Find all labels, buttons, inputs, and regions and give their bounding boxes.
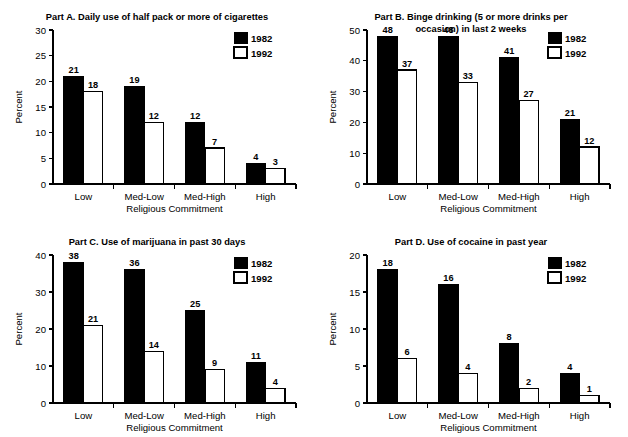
- y-tick-label: 0: [41, 179, 46, 190]
- y-tick-label: 30: [35, 25, 46, 36]
- x-axis-c: LowMed-LowMed-HighHigh: [75, 403, 296, 421]
- y-tick-label: 5: [41, 153, 46, 164]
- bar-value-label: 7: [212, 137, 217, 147]
- y-tick-label: 20: [35, 76, 46, 87]
- bar-value-label: 16: [443, 273, 453, 283]
- bar-1992-low: [397, 70, 416, 184]
- bar-1982-med-high: [499, 344, 518, 403]
- chart-panel-c: Part C. Use of marijuana in past 30 days…: [0, 219, 314, 437]
- bar-value-label: 8: [507, 332, 512, 342]
- y-tick-label: 15: [35, 102, 46, 113]
- chart-title-line: Part D. Use of cocaine in past year: [395, 237, 548, 247]
- bar-1992-med-low: [458, 373, 477, 403]
- y-tick-label: 25: [35, 50, 46, 61]
- bar-1992-high: [266, 169, 285, 184]
- bar-value-label: 2: [526, 377, 531, 387]
- bar-value-label: 1: [587, 384, 592, 394]
- chart-title-b: Part B. Binge drinking (5 or more drinks…: [374, 12, 568, 34]
- y-tick-label: 5: [355, 361, 360, 372]
- bar-1992-med-low: [458, 82, 477, 184]
- chart-title-line: Part B. Binge drinking (5 or more drinks…: [374, 12, 568, 22]
- y-axis-d: 05101520: [349, 250, 367, 409]
- bar-1982-low: [378, 270, 397, 403]
- y-tick-label: 10: [349, 324, 360, 335]
- x-category-label: Med-Low: [438, 410, 478, 421]
- legend-label-1982: 1982: [565, 33, 586, 44]
- bar-1982-high: [246, 163, 265, 184]
- bar-value-label: 12: [190, 111, 200, 121]
- x-category-label: Med-Low: [124, 410, 164, 421]
- bar-1982-med-low: [125, 270, 144, 403]
- x-category-label: Low: [75, 191, 93, 202]
- y-tick-label: 50: [349, 25, 360, 36]
- x-axis-title: Religious Commitment: [126, 422, 223, 433]
- y-tick-label: 10: [349, 148, 360, 159]
- bar-value-label: 27: [523, 89, 533, 99]
- bar-1992-low: [83, 325, 102, 403]
- legend-label-1992: 1992: [565, 48, 586, 59]
- bar-value-label: 48: [443, 25, 453, 35]
- bar-value-label: 48: [383, 25, 393, 35]
- bar-1982-med-high: [185, 122, 204, 184]
- x-category-label: Low: [389, 191, 407, 202]
- bars-group-a: 2118191212743: [64, 65, 285, 184]
- bar-1992-med-low: [144, 351, 163, 403]
- chart-title-line: Part C. Use of marijuana in past 30 days: [69, 237, 246, 247]
- legend-c: 19821992: [234, 257, 272, 284]
- chart-panel-b: Part B. Binge drinking (5 or more drinks…: [314, 0, 628, 218]
- chart-title-a: Part A. Daily use of half pack or more o…: [46, 12, 268, 22]
- bar-value-label: 21: [88, 314, 98, 324]
- y-tick-label: 0: [355, 179, 360, 190]
- bar-1982-med-high: [185, 311, 204, 404]
- y-axis-title: Percent: [13, 312, 24, 345]
- legend-d: 19821992: [548, 257, 586, 284]
- bar-chart-c: Part C. Use of marijuana in past 30 days…: [0, 219, 314, 437]
- legend-label-1982: 1982: [251, 258, 272, 269]
- x-category-label: Med-High: [498, 410, 540, 421]
- legend-label-1982: 1982: [251, 33, 272, 44]
- y-tick-label: 30: [349, 86, 360, 97]
- bar-1982-low: [64, 76, 83, 184]
- y-tick-label: 40: [35, 250, 46, 261]
- x-category-label: High: [256, 410, 276, 421]
- y-tick-label: 0: [355, 398, 360, 409]
- y-tick-label: 30: [35, 287, 46, 298]
- bar-1992-med-high: [519, 101, 538, 184]
- bar-1992-med-low: [144, 122, 163, 184]
- y-axis-b: 01020304050: [349, 25, 367, 190]
- bar-chart-d: Part D. Use of cocaine in past year05101…: [314, 219, 628, 437]
- bar-value-label: 4: [273, 377, 279, 387]
- legend-swatch-1992: [234, 272, 247, 283]
- y-axis-title: Percent: [327, 90, 338, 123]
- legend-swatch-1992: [548, 272, 561, 283]
- chart-title-d: Part D. Use of cocaine in past year: [395, 237, 548, 247]
- bar-value-label: 25: [190, 299, 200, 309]
- legend-a: 19821992: [234, 32, 272, 59]
- bar-value-label: 18: [383, 258, 393, 268]
- legend-label-1992: 1992: [565, 273, 586, 284]
- bar-value-label: 37: [402, 59, 412, 69]
- x-axis-title: Religious Commitment: [440, 203, 537, 214]
- bar-chart-a: Part A. Daily use of half pack or more o…: [0, 0, 314, 218]
- bar-1992-high: [580, 147, 599, 184]
- bar-1982-med-low: [439, 36, 458, 184]
- bar-value-label: 12: [149, 111, 159, 121]
- x-axis-b: LowMed-LowMed-HighHigh: [389, 184, 610, 202]
- y-tick-label: 20: [349, 250, 360, 261]
- bar-1982-high: [560, 119, 579, 184]
- y-axis-title: Percent: [327, 312, 338, 345]
- chart-panel-d: Part D. Use of cocaine in past year05101…: [314, 219, 628, 437]
- x-category-label: Med-High: [184, 191, 226, 202]
- x-category-label: Med-High: [184, 410, 226, 421]
- y-tick-label: 20: [349, 117, 360, 128]
- legend-swatch-1992: [548, 47, 561, 58]
- bar-value-label: 11: [251, 351, 261, 361]
- bar-chart-b: Part B. Binge drinking (5 or more drinks…: [314, 0, 628, 218]
- legend-swatch-1982: [234, 257, 247, 268]
- bar-1982-med-high: [499, 58, 518, 184]
- bar-1992-high: [580, 396, 599, 403]
- bar-1992-low: [397, 359, 416, 403]
- bar-value-label: 4: [465, 362, 471, 372]
- bar-value-label: 14: [149, 340, 160, 350]
- x-category-label: High: [570, 191, 590, 202]
